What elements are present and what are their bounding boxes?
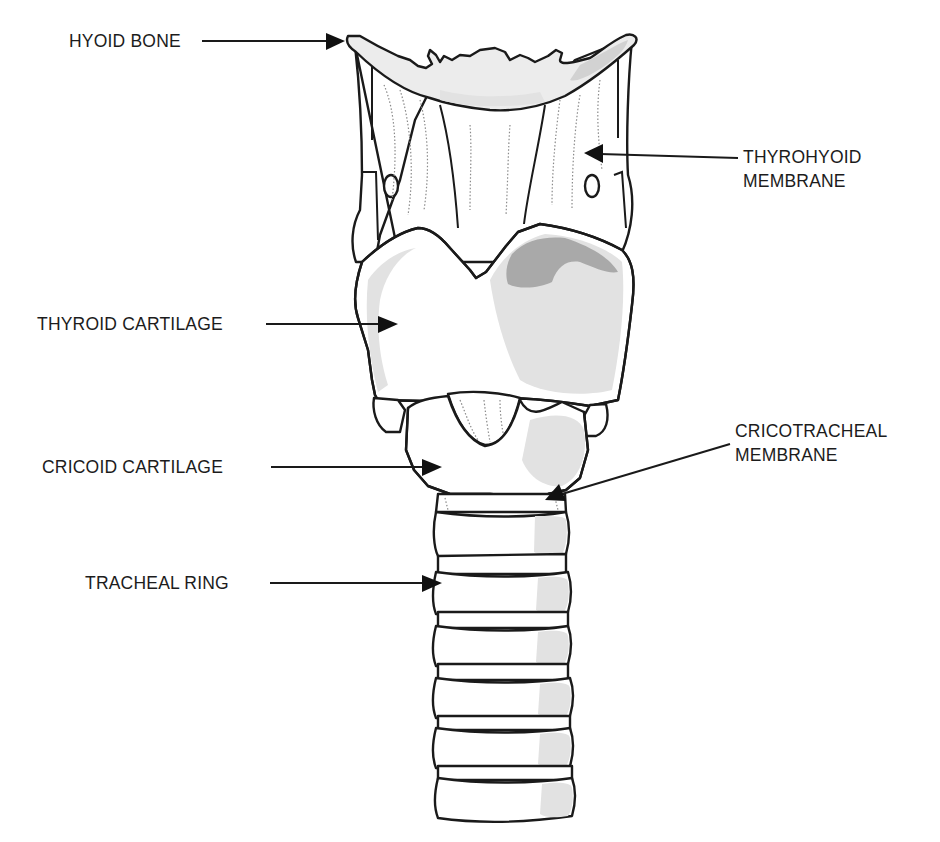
tracheal-rings <box>433 512 575 822</box>
label-tracheal-ring: TRACHEAL RING <box>85 571 229 595</box>
label-thyrohyoid-line2: MEMBRANE <box>743 169 862 193</box>
label-thyrohyoid-membrane: THYROHYOID MEMBRANE <box>743 145 862 193</box>
label-cricotracheal-line2: MEMBRANE <box>735 443 887 467</box>
label-hyoid-bone: HYOID BONE <box>69 29 181 53</box>
label-cricotracheal-line1: CRICOTRACHEAL <box>735 419 887 443</box>
trachea <box>433 494 575 822</box>
label-thyroid-cartilage: THYROID CARTILAGE <box>37 312 223 336</box>
label-cricotracheal-membrane: CRICOTRACHEAL MEMBRANE <box>735 419 887 467</box>
label-thyrohyoid-line1: THYROHYOID <box>743 145 862 169</box>
label-cricoid-cartilage: CRICOID CARTILAGE <box>42 455 223 479</box>
cricotracheal-membrane <box>436 494 566 512</box>
